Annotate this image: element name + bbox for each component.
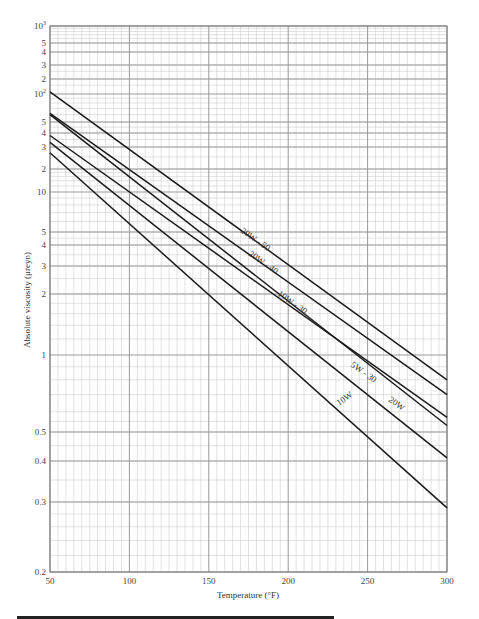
grid-minor [50, 26, 447, 572]
x-tick-label: 300 [440, 576, 454, 586]
x-axis-title: Temperature (°F) [217, 590, 279, 600]
y-tick-label: 5 [42, 227, 47, 237]
x-tick-label: 50 [46, 576, 56, 586]
series-label: 10W - 30 [276, 288, 310, 316]
y-tick-label: 2 [42, 164, 47, 174]
y-tick-label: 2 [42, 289, 47, 299]
y-axis-title: Absolute viscosity (μreyn) [22, 252, 32, 348]
y-tick-label: 2 [42, 74, 47, 84]
y-tick-label: 3 [42, 60, 47, 70]
y-tick-label: 3 [42, 261, 47, 271]
x-tick-label: 200 [281, 576, 295, 586]
y-axis-ticks: 1035432102543210543210.50.40.30.2 [34, 20, 47, 577]
y-tick-label: 102 [34, 88, 46, 99]
y-tick-label: 0.5 [35, 427, 47, 437]
series-label: 20W - 50 [239, 225, 273, 253]
x-tick-label: 100 [123, 576, 137, 586]
series-label: 5W - 30 [349, 359, 379, 384]
y-tick-label: 3 [42, 142, 47, 152]
x-tick-label: 150 [202, 576, 216, 586]
x-axis-ticks: 50100150200250300 [46, 576, 455, 586]
y-tick-label: 4 [42, 128, 47, 138]
y-tick-label: 0.3 [35, 497, 47, 507]
viscosity-temperature-chart: 1035432102543210543210.50.40.30.2 501001… [0, 0, 479, 619]
y-tick-label: 5 [42, 117, 47, 127]
series-label: 20W [387, 394, 407, 413]
y-tick-label: 103 [34, 20, 46, 31]
y-tick-label: 4 [42, 240, 47, 250]
x-tick-label: 250 [361, 576, 375, 586]
y-tick-label: 10 [37, 187, 47, 197]
y-tick-label: 4 [42, 47, 47, 57]
y-tick-label: 0.4 [35, 456, 47, 466]
y-tick-label: 0.2 [35, 567, 46, 577]
y-tick-label: 1 [42, 350, 47, 360]
